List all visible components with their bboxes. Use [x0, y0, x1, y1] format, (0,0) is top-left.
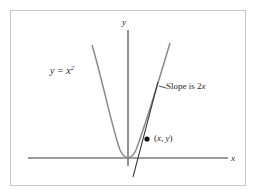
point-label-close-paren: ) [170, 133, 173, 143]
slope-label-leader-line [159, 86, 166, 88]
tangent-point-marker [144, 136, 149, 141]
point-coordinate-label: (x, y) [154, 134, 173, 143]
y-axis-label: y [122, 18, 126, 27]
curve-equation-exponent: 2 [71, 64, 75, 72]
curve-equation-label: y = x2 [50, 65, 74, 76]
figure-container: y = x2 Slope is 2x (x, y) y x [0, 0, 255, 196]
slope-annotation-text: Slope is 2 [166, 81, 202, 91]
figure-drawing-canvas [0, 0, 255, 196]
tangent-line [133, 82, 158, 177]
curve-equation-text: y = x [50, 65, 71, 76]
slope-annotation-label: Slope is 2x [166, 82, 206, 91]
x-axis-label: x [231, 154, 235, 163]
slope-annotation-variable: x [202, 81, 206, 91]
